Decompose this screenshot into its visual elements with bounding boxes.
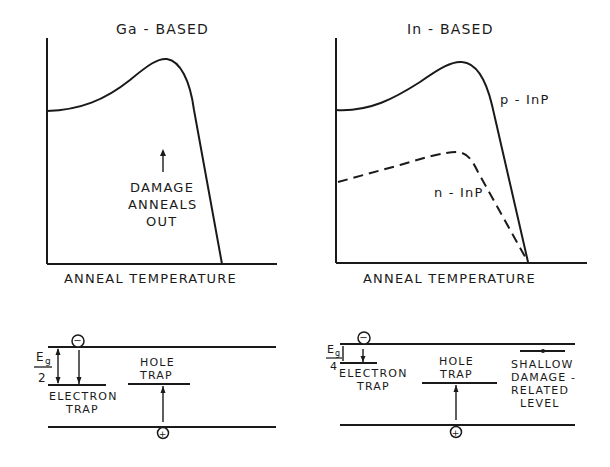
shallow-level-dot-icon xyxy=(541,349,545,353)
left-x-label: ANNEAL TEMPERATURE xyxy=(64,271,237,286)
diagram-canvas: Ga - BASED DAMAGE ANNEALS OUT ANNEAL TEM… xyxy=(0,0,610,467)
arrowhead-icon xyxy=(161,386,166,393)
eg-denominator: 4 xyxy=(330,360,338,373)
p-inp-label: p - InP xyxy=(500,92,550,107)
hole-trap-label-2: TRAP xyxy=(439,368,473,381)
arrowhead-icon xyxy=(361,356,366,362)
electron-trap-label-2: TRAP xyxy=(65,403,99,416)
arrowhead-icon xyxy=(77,377,82,384)
hole-trap-label-1: HOLE xyxy=(140,356,175,369)
hole-symbol: + xyxy=(452,428,461,438)
right-plot-title: In - BASED xyxy=(407,21,494,37)
annotation-line-2: ANNEALS xyxy=(128,197,197,212)
arrowhead-icon xyxy=(454,385,459,392)
eg-label: E xyxy=(36,350,45,364)
right-band-diagram: − + E g 4 ELECTRON TRAP HOLE TRAP SHALLO… xyxy=(326,332,576,438)
n-inp-curve xyxy=(338,152,528,262)
electron-trap-label-2: TRAP xyxy=(356,380,390,393)
right-x-label: ANNEAL TEMPERATURE xyxy=(363,271,536,286)
left-band-diagram: − + E g 2 ELECTRON TRAP HOLE TRAP xyxy=(34,335,276,439)
left-plot-title: Ga - BASED xyxy=(116,21,209,37)
electron-trap-label-1: ELECTRON xyxy=(339,367,408,380)
eg-subscript: g xyxy=(45,356,52,366)
electron-symbol: − xyxy=(73,335,83,346)
eg-denominator: 2 xyxy=(38,371,47,385)
right-plot: In - BASED p - InP n - InP ANNEAL TEMPER… xyxy=(336,21,587,286)
arrowhead-icon xyxy=(160,149,166,156)
annotation-line-3: OUT xyxy=(146,214,177,229)
eg-subscript: g xyxy=(335,349,341,358)
shallow-label-4: LEVEL xyxy=(520,397,560,410)
hole-symbol: + xyxy=(159,429,168,439)
n-inp-label: n - InP xyxy=(434,185,484,200)
hole-trap-label-2: TRAP xyxy=(139,369,173,382)
shallow-label-1: SHALLOW xyxy=(511,358,574,371)
electron-symbol: − xyxy=(359,332,369,343)
shallow-label-2: DAMAGE - xyxy=(511,371,576,384)
eg-label: E xyxy=(327,343,335,356)
ga-curve xyxy=(47,59,222,264)
annotation-line-1: DAMAGE xyxy=(130,180,194,195)
shallow-label-3: RELATED xyxy=(511,384,569,397)
left-plot: Ga - BASED DAMAGE ANNEALS OUT ANNEAL TEM… xyxy=(47,21,277,286)
electron-trap-label-1: ELECTRON xyxy=(49,390,118,403)
hole-trap-label-1: HOLE xyxy=(439,355,474,368)
